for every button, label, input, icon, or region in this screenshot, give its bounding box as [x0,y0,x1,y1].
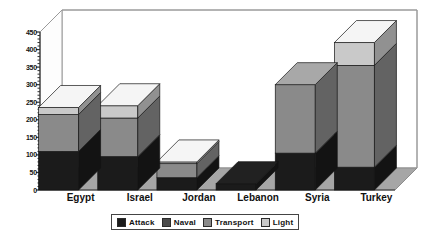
x-axis-label-egypt: Egypt [67,192,95,203]
bar-segment-syria-attack [275,153,315,190]
bar-segment-egypt-transport [39,115,79,152]
bar-segment-turkey-attack [334,167,374,190]
y-axis-tick-label: 250 [26,99,37,106]
legend-swatch-naval-icon [162,218,171,227]
x-axis-label-lebanon: Lebanon [237,192,279,203]
y-axis-tick-label: 350 [26,64,37,71]
bar-segment-israel-transport [98,118,138,157]
y-axis-tick-label: 0 [33,187,37,194]
y-axis-tick-label: 450 [26,29,37,36]
bar-segment-israel-light [98,106,138,118]
y-axis-tick-label: 50 [30,169,37,176]
y-axis-tick-label: 100 [26,151,37,158]
bar-group-turkey [334,21,396,190]
legend-label: Light [273,218,294,227]
legend-item-light[interactable]: Light [261,218,294,227]
legend-swatch-light-icon [261,218,270,227]
bar-segment-israel-attack [98,157,138,190]
chart-container: 450400350300250200150100500 EgyptIsraelJ… [0,0,425,244]
legend-item-attack[interactable]: Attack [117,218,155,227]
bar-segment-egypt-light [39,107,79,114]
bar-group-egypt [39,85,101,190]
x-axis-label-syria: Syria [305,192,329,203]
y-axis-tick-label: 150 [26,134,37,141]
y-axis-tick-labels: 450400350300250200150100500 [0,0,37,244]
legend-item-naval[interactable]: Naval [162,218,196,227]
x-axis-label-turkey: Turkey [360,192,392,203]
legend-swatch-transport-icon [203,218,212,227]
legend-swatch-attack-icon [117,218,126,227]
y-axis-tick-label: 300 [26,81,37,88]
x-axis-label-israel: Israel [127,192,153,203]
legend-label: Transport [215,218,254,227]
legend-item-transport[interactable]: Transport [203,218,254,227]
bar-segment-turkey-transport [334,65,374,167]
x-axis-category-labels: EgyptIsraelJordanLebanonSyriaTurkey [40,192,425,208]
bar-group-syria [275,63,337,190]
bar-segment-lebanon-attack [216,184,256,190]
bar-segment-syria-transport [275,85,315,153]
bar-segment-jordan-transport [157,164,197,178]
y-axis-tick-label: 400 [26,46,37,53]
y-axis-tick-label: 200 [26,116,37,123]
bar-group-israel [98,84,160,190]
bar-segment-egypt-attack [39,151,79,190]
bar-segment-turkey-light [334,43,374,66]
x-axis-label-jordan: Jordan [182,192,215,203]
chart-legend: AttackNavalTransportLight [111,214,299,230]
legend-label: Naval [174,218,196,227]
bar-segment-jordan-attack [157,178,197,190]
legend-label: Attack [129,218,155,227]
